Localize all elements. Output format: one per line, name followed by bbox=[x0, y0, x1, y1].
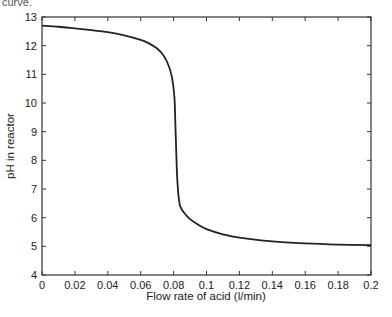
y-tick-label: 6 bbox=[31, 212, 37, 224]
y-tick-label: 7 bbox=[31, 183, 37, 195]
x-tick-label: 0.18 bbox=[327, 279, 348, 291]
x-axis-label: Flow rate of acid (l/min) bbox=[146, 290, 266, 302]
y-axis-label: pH in reactor bbox=[4, 113, 16, 179]
x-axis-ticks: 00.020.040.060.080.10.120.140.160.180.2 bbox=[39, 17, 379, 291]
ph-curve-line bbox=[42, 26, 371, 246]
y-tick-label: 5 bbox=[31, 240, 37, 252]
x-tick-label: 0.16 bbox=[294, 279, 315, 291]
x-tick-label: 0.2 bbox=[363, 279, 378, 291]
y-axis-ticks: 45678910111213 bbox=[25, 11, 371, 281]
x-tick-label: 0.04 bbox=[97, 279, 118, 291]
y-tick-label: 4 bbox=[31, 269, 37, 281]
plot-area: 00.020.040.060.080.10.120.140.160.180.2 … bbox=[25, 11, 379, 291]
y-tick-label: 8 bbox=[31, 154, 37, 166]
axes-frame bbox=[42, 17, 371, 275]
y-tick-label: 10 bbox=[25, 97, 37, 109]
y-tick-label: 13 bbox=[25, 11, 37, 23]
y-tick-label: 11 bbox=[26, 68, 37, 80]
y-tick-label: 9 bbox=[31, 126, 37, 138]
caption-fragment: curve. bbox=[2, 0, 32, 8]
chart: curve. 00.020.040.060.080.10.120.140.160… bbox=[0, 0, 392, 317]
x-tick-label: 0.02 bbox=[64, 279, 85, 291]
x-tick-label: 0 bbox=[39, 279, 45, 291]
y-tick-label: 12 bbox=[25, 40, 37, 52]
